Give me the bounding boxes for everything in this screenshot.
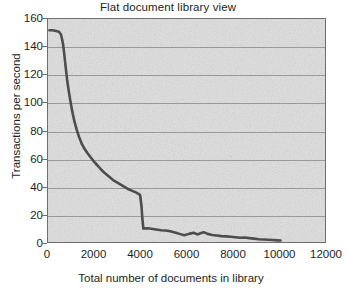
y-tick-mark <box>42 102 47 103</box>
x-axis-tick-labels: 020004000600080001000012000 <box>0 248 336 264</box>
data-line <box>49 30 280 240</box>
y-tick-mark <box>42 215 47 216</box>
chart-title: Flat document library view <box>0 1 336 13</box>
y-tick-mark <box>42 159 47 160</box>
x-axis-title: Total number of documents in library <box>16 272 326 284</box>
plot-area <box>47 18 326 243</box>
x-tick-label: 12000 <box>296 248 347 260</box>
gridlines <box>48 48 326 217</box>
y-tick-label: 120 <box>1 68 43 80</box>
y-tick-mark <box>42 243 47 244</box>
y-tick-label: 60 <box>1 153 43 165</box>
y-tick-label: 80 <box>1 125 43 137</box>
y-tick-mark <box>42 46 47 47</box>
y-tick-label: 100 <box>1 96 43 108</box>
y-tick-label: 140 <box>1 40 43 52</box>
y-tick-mark <box>42 187 47 188</box>
y-tick-label: 40 <box>1 181 43 193</box>
y-tick-mark <box>42 131 47 132</box>
y-tick-label: 20 <box>1 209 43 221</box>
plot-canvas <box>48 19 326 243</box>
y-tick-mark <box>42 18 47 19</box>
y-tick-label: 160 <box>1 12 43 24</box>
y-tick-mark <box>42 74 47 75</box>
data-series-group <box>49 30 280 240</box>
